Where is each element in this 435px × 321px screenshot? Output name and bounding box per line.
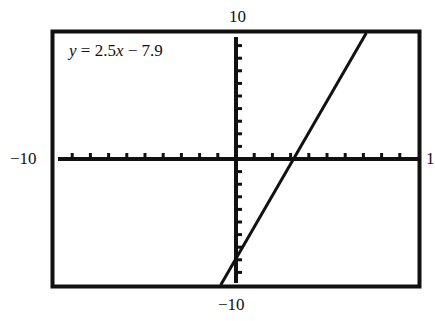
x-max-label: 1 — [426, 150, 435, 167]
y-max-label: 10 — [229, 8, 246, 25]
y-min-label: −10 — [218, 296, 245, 313]
equation-equals: = 2.5 — [77, 41, 116, 60]
x-min-label: −10 — [10, 150, 37, 167]
equation-y-var: y — [69, 41, 77, 60]
equation-label: y = 2.5x − 7.9 — [69, 42, 163, 59]
equation-rest: − 7.9 — [123, 41, 162, 60]
graph-canvas — [0, 0, 435, 321]
